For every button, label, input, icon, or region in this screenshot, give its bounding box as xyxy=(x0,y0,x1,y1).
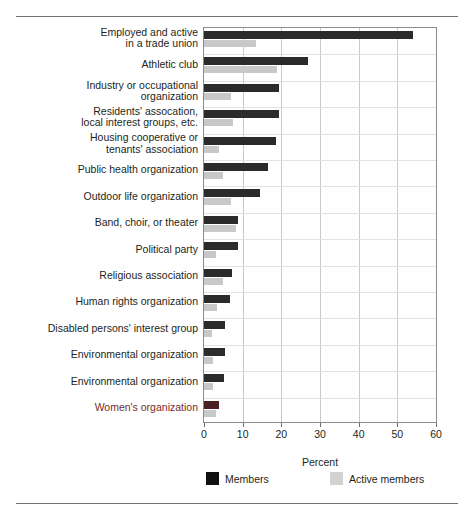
bar-active-members xyxy=(204,40,256,47)
category-label: Environmental organization xyxy=(8,349,198,361)
bar-active-members xyxy=(204,278,223,285)
gridline xyxy=(397,28,398,422)
bar-members xyxy=(204,31,413,39)
row-separator xyxy=(204,134,436,135)
row-separator xyxy=(204,107,436,108)
category-label: Outdoor life organization xyxy=(8,191,198,203)
gridline xyxy=(436,28,437,422)
gridline xyxy=(359,28,360,422)
category-label: Residents' assocation, local interest gr… xyxy=(8,106,198,129)
legend-label-members: Members xyxy=(225,473,269,485)
axis-tick-label: 50 xyxy=(382,428,412,440)
row-separator xyxy=(204,213,436,214)
category-label: Political party xyxy=(8,244,198,256)
axis-tick-label: 10 xyxy=(228,428,258,440)
bar-active-members xyxy=(204,93,231,100)
axis-tick xyxy=(281,423,282,427)
axis-tick xyxy=(243,423,244,427)
row-separator xyxy=(204,398,436,399)
axis-tick-label: 0 xyxy=(189,428,219,440)
category-label: Public health organization xyxy=(8,164,198,176)
bar-members xyxy=(204,321,225,329)
gridline xyxy=(320,28,321,422)
bar-active-members xyxy=(204,146,219,153)
row-separator xyxy=(204,81,436,82)
axis-tick-label: 60 xyxy=(421,428,451,440)
axis-tick xyxy=(359,423,360,427)
bar-members xyxy=(204,163,268,171)
category-label: Band, choir, or theater xyxy=(8,217,198,229)
bar-active-members xyxy=(204,66,277,73)
row-separator xyxy=(204,292,436,293)
bar-members xyxy=(204,295,230,303)
plot-area xyxy=(203,27,437,423)
bar-active-members xyxy=(204,172,223,179)
bar-members xyxy=(204,189,260,197)
axis-tick xyxy=(397,423,398,427)
category-label-column: Employed and active in a trade unionAthl… xyxy=(8,27,198,423)
bar-active-members xyxy=(204,304,217,311)
bar-members xyxy=(204,137,276,145)
bar-active-members xyxy=(204,251,216,258)
bar-active-members xyxy=(204,410,216,417)
axis-tick xyxy=(436,423,437,427)
chart-legend: Members Active members xyxy=(0,472,472,494)
row-separator xyxy=(204,345,436,346)
row-separator xyxy=(204,318,436,319)
bar-active-members xyxy=(204,330,212,337)
axis-tick xyxy=(320,423,321,427)
axis-tick-label: 40 xyxy=(344,428,374,440)
legend-label-active-members: Active members xyxy=(349,473,424,485)
bar-members xyxy=(204,348,225,356)
bottom-divider-rule xyxy=(16,503,458,504)
row-separator xyxy=(204,239,436,240)
x-axis-title: Percent xyxy=(203,456,437,468)
top-divider-rule xyxy=(16,16,458,17)
bar-active-members xyxy=(204,225,236,232)
category-label: Women's organization xyxy=(8,402,198,414)
category-label: Housing cooperative or tenants' associat… xyxy=(8,132,198,155)
bar-members xyxy=(204,216,238,224)
axis-tick xyxy=(204,423,205,427)
bar-active-members xyxy=(204,198,231,205)
bar-members xyxy=(204,57,308,65)
legend-item-members: Members xyxy=(206,472,269,485)
legend-swatch-active-members-icon xyxy=(330,472,343,485)
axis-tick-label: 20 xyxy=(266,428,296,440)
bar-active-members xyxy=(204,357,213,364)
category-label: Disabled persons' interest group xyxy=(8,323,198,335)
bar-members xyxy=(204,110,279,118)
row-separator xyxy=(204,54,436,55)
chart-page: Employed and active in a trade unionAthl… xyxy=(0,0,472,516)
bar-members xyxy=(204,269,232,277)
bar-members xyxy=(204,84,279,92)
bar-chart: Employed and active in a trade unionAthl… xyxy=(0,22,472,432)
axis-tick-label: 30 xyxy=(305,428,335,440)
x-axis: 0102030405060 xyxy=(203,423,437,453)
row-separator xyxy=(204,160,436,161)
category-label: Athletic club xyxy=(8,59,198,71)
legend-swatch-members-icon xyxy=(206,472,219,485)
row-separator xyxy=(204,266,436,267)
bar-active-members xyxy=(204,119,233,126)
bar-members xyxy=(204,374,224,382)
category-label: Employed and active in a trade union xyxy=(8,27,198,50)
category-label: Religious association xyxy=(8,270,198,282)
row-separator xyxy=(204,186,436,187)
bar-active-members xyxy=(204,383,213,390)
category-label: Industry or occupational organization xyxy=(8,80,198,103)
gridline xyxy=(281,28,282,422)
row-separator xyxy=(204,371,436,372)
bar-members xyxy=(204,242,238,250)
legend-item-active-members: Active members xyxy=(330,472,424,485)
category-label: Human rights organization xyxy=(8,296,198,308)
bar-members xyxy=(204,401,219,409)
category-label: Environmental organization xyxy=(8,376,198,388)
